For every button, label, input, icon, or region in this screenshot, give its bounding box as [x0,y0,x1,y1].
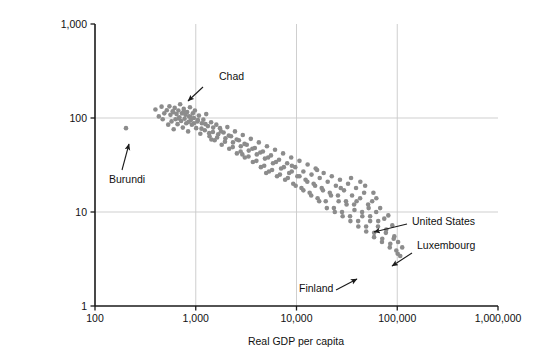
data-point [380,240,385,245]
data-point [370,199,375,204]
data-point [285,161,290,166]
data-point [262,164,267,169]
data-point [159,104,164,109]
data-point [250,147,255,152]
annotation-label: United States [412,215,475,227]
data-point [293,184,298,189]
data-point [358,196,363,201]
data-point [188,105,193,110]
data-point [270,168,275,173]
data-point [198,131,203,136]
data-point [192,121,197,126]
data-point [197,113,202,118]
data-point [360,214,365,219]
data-point [219,129,224,134]
data-point [175,122,180,127]
data-point [240,133,245,138]
data-point [297,174,302,179]
data-point [366,206,371,211]
data-point [336,199,341,204]
data-point [186,120,191,125]
annotation-label: Chad [219,70,244,82]
data-point [289,169,294,174]
data-point [242,142,247,147]
y-axis-tick-label: 1,000 [61,18,87,30]
x-axis-tick-label: 10,000 [280,312,312,324]
data-point [386,213,391,218]
annotation-label: Finland [299,282,334,294]
data-point [349,176,354,181]
data-point [309,193,314,198]
data-point [354,186,359,191]
data-point [199,126,204,131]
data-point [321,171,326,176]
data-point [376,224,381,229]
data-point [166,122,171,127]
data-point [317,176,322,181]
data-point [165,108,170,113]
data-point [368,219,373,224]
data-point [278,172,283,177]
data-point [282,165,287,170]
data-point [338,178,343,183]
data-point [301,169,306,174]
data-point [172,106,177,111]
data-point [181,125,186,130]
data-point [340,214,345,219]
x-axis-tick-label: 100 [86,312,104,324]
data-point [387,245,392,250]
data-point [171,127,176,132]
data-point [325,179,330,184]
x-axis-tick-label: 1,000 [183,312,209,324]
data-point [400,245,405,250]
data-point [340,210,345,215]
data-point [321,188,326,193]
data-point [215,135,220,140]
data-point [368,214,373,219]
x-axis-tick-label: 1,000,000 [475,312,522,324]
data-point [334,184,339,189]
data-point [350,193,355,198]
data-point [223,139,228,144]
data-point [169,119,174,124]
data-point [266,155,271,160]
data-point [374,196,379,201]
data-point [249,137,254,142]
data-point [265,144,270,149]
data-point [364,224,369,229]
data-point [188,114,193,119]
data-point [297,159,302,164]
data-point [384,231,389,236]
data-point [325,206,330,211]
data-point [178,102,183,107]
data-point [177,116,182,121]
data-point [167,104,172,109]
data-point [211,125,216,130]
data-point [356,224,361,229]
data-point [382,216,387,221]
data-point [372,235,377,240]
data-point [344,202,349,207]
x-axis-title: Real GDP per capita [248,335,344,347]
data-point [317,199,322,204]
data-point [231,140,236,145]
data-point [171,110,176,115]
data-point [153,107,158,112]
data-point [176,108,181,113]
data-point [201,117,206,122]
data-point [160,117,165,122]
data-point [378,206,383,211]
data-point [281,151,286,156]
data-point [354,199,359,204]
y-axis-tick-label: 100 [69,112,87,124]
data-point [264,171,269,176]
data-point [254,159,259,164]
data-point [258,150,263,155]
data-point [363,184,368,189]
data-point [338,186,343,191]
data-point [313,184,318,189]
scatter-chart-figure: 1001,00010,000100,0001,000,0001101001,00… [0,0,542,362]
data-point [124,126,129,131]
data-point [225,125,230,130]
data-point [333,210,338,215]
